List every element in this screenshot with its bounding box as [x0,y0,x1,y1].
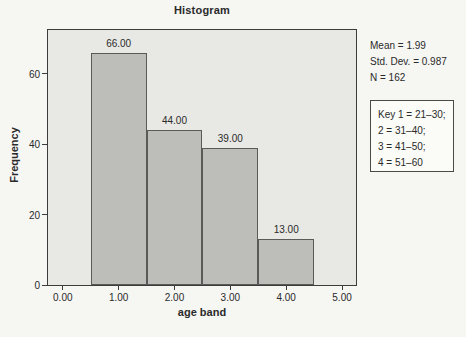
x-tick-mark [286,286,287,290]
stats-line: N = 162 [370,70,447,86]
chart-title: Histogram [47,4,357,16]
stats-line: Mean = 1.99 [370,38,447,54]
x-tick-mark [230,286,231,290]
x-tick-label: 4.00 [276,292,295,303]
x-tick-label: 1.00 [109,292,128,303]
y-tick-label: 40 [12,139,40,150]
key-line: 2 = 31–40; [378,123,447,139]
x-tick-label: 2.00 [165,292,184,303]
key-line: 4 = 51–60 [378,155,447,171]
y-tick-label: 0 [12,280,40,291]
histogram-bar [202,148,258,285]
bar-value-label: 13.00 [274,224,299,235]
x-tick-label: 3.00 [221,292,240,303]
y-tick-mark [42,285,47,286]
bar-value-label: 44.00 [162,115,187,126]
key-box: Key 1 = 21–30;2 = 31–40;3 = 41–50;4 = 51… [370,100,454,172]
histogram-figure: Histogram Frequency age band Mean = 1.99… [0,0,466,337]
y-tick-mark [42,144,47,145]
y-tick-label: 60 [12,68,40,79]
stats-line: Std. Dev. = 0.987 [370,54,447,70]
bar-value-label: 66.00 [106,38,131,49]
x-tick-mark [118,286,119,290]
bar-value-label: 39.00 [218,133,243,144]
plot-area [47,29,357,286]
x-tick-label: 0.00 [53,292,72,303]
y-tick-mark [42,214,47,215]
y-tick-mark [42,73,47,74]
x-tick-mark [62,286,63,290]
histogram-bar [147,130,203,285]
key-line: Key 1 = 21–30; [378,107,447,123]
y-tick-label: 20 [12,209,40,220]
x-tick-label: 5.00 [332,292,351,303]
key-line: 3 = 41–50; [378,139,447,155]
x-tick-mark [174,286,175,290]
x-axis-title: age band [47,306,357,318]
x-tick-mark [342,286,343,290]
y-axis-title: Frequency [8,127,20,183]
histogram-bar [91,53,147,285]
stats-annotation: Mean = 1.99Std. Dev. = 0.987N = 162 [370,38,447,86]
histogram-bar [258,239,314,285]
